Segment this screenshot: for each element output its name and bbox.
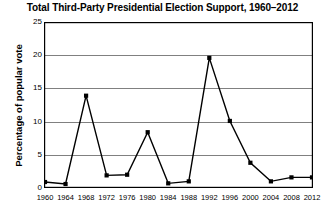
- chart-plot-svg: [44, 22, 313, 188]
- data-point-1984: [166, 181, 170, 185]
- y-tick-label-20: 20: [26, 51, 42, 59]
- y-axis-tick-labels: 25 20 15 10 5 0: [22, 0, 42, 215]
- data-point-1988: [187, 179, 191, 183]
- data-point-1968: [84, 94, 88, 98]
- data-point-markers: [44, 56, 313, 186]
- data-point-2000: [248, 161, 252, 165]
- y-tick-label-10: 10: [26, 118, 42, 126]
- y-tick-label-5: 5: [26, 151, 42, 159]
- y-tick-label-15: 15: [26, 84, 42, 92]
- data-point-2004: [269, 179, 273, 183]
- plot-frame-border: [45, 23, 313, 188]
- plot-area: [44, 22, 313, 188]
- chart-title: Total Third-Party Presidential Election …: [0, 2, 325, 14]
- data-point-1964: [63, 182, 67, 186]
- y-tick-label-25: 25: [26, 18, 42, 26]
- data-point-1992: [207, 56, 211, 60]
- y-tick-label-0: 0: [26, 184, 42, 192]
- x-axis-tick-labels: 1960196419681972197619801984198819921996…: [44, 193, 313, 207]
- data-point-2008: [289, 175, 293, 179]
- x-tick-label-2012: 2012: [297, 193, 325, 202]
- gridlines: [45, 56, 312, 156]
- data-point-1996: [228, 119, 232, 123]
- chart-figure: Total Third-Party Presidential Election …: [0, 0, 325, 215]
- data-point-1972: [105, 173, 109, 177]
- data-series-line: [45, 58, 312, 184]
- data-point-1980: [146, 130, 150, 134]
- data-point-1976: [125, 173, 129, 177]
